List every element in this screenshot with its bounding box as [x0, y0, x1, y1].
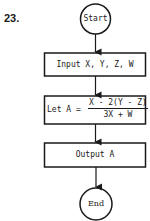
fraction-denominator: 3X + W — [103, 109, 132, 119]
assign-prefix: Let A = — [47, 106, 81, 114]
fraction-numerator: X - 2(Y - Z) — [88, 99, 148, 109]
output-label: Output A — [44, 151, 146, 159]
input-label: Input X, Y, Z, W — [44, 61, 146, 69]
assign-fraction: X - 2(Y - Z) 3X + W — [88, 99, 148, 119]
end-label: End — [80, 200, 112, 208]
start-label: Start — [80, 15, 111, 23]
